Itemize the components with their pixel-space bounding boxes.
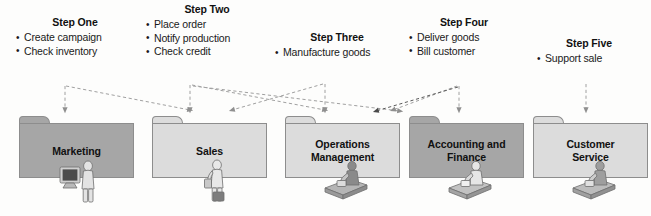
bullet-text: Create campaign [24,31,102,43]
step-title-five: Step Five [537,37,641,49]
arrow-step-two-to-operations [192,85,325,110]
bullet-text: Bill customer [417,45,475,57]
person-at-desk-icon [315,158,377,206]
bullet-glyph: • [146,31,149,45]
arrow-step-four-to-operations [393,86,457,110]
step-title-four: Step Four [409,16,519,28]
person-at-desk-icon [439,158,501,206]
step-title-two: Step Two [146,3,268,15]
bullet-item: •Manufacture goods [275,46,399,60]
bullet-item: •Bill customer [409,45,519,59]
bullet-glyph: • [16,31,19,45]
bullet-item: •Deliver goods [409,31,519,45]
step-bullets-one: •Create campaign •Check inventory [16,31,134,58]
bullet-glyph: • [275,46,278,60]
process-diagram: Step One •Create campaign •Check invento… [0,0,651,216]
arrow-step-two-to-accounting [193,86,400,111]
department-folder-accounting[interactable]: Accounting and Finance [409,116,524,178]
bullet-glyph: • [16,44,19,58]
bullet-text: Support sale [545,52,602,64]
person-at-monitor-icon [56,158,112,206]
department-folder-marketing[interactable]: Marketing [19,116,134,178]
department-folder-sales[interactable]: Sales [152,116,267,178]
step-block-one: Step One •Create campaign •Check invento… [16,16,134,58]
bullet-text: Place order [154,18,206,30]
bullet-item: •Check credit [146,45,268,59]
step-title-one: Step One [16,16,134,28]
step-block-five: Step Five •Support sale [537,37,641,66]
folder-label-marketing: Marketing [19,145,134,158]
person-with-briefcase-icon [196,156,238,206]
step-block-two: Step Two •Place order •Notify production… [146,3,268,59]
step-bullets-four: •Deliver goods •Bill customer [409,31,519,58]
step-bullets-five: •Support sale [537,52,641,66]
bullet-item: •Create campaign [16,31,134,45]
bullet-glyph: • [409,44,412,58]
bullet-item: •Support sale [537,52,641,66]
step-bullets-three: •Manufacture goods [275,46,399,60]
bullet-item: •Notify production [146,32,268,46]
step-bullets-two: •Place order •Notify production •Check c… [146,18,268,59]
person-at-desk-icon [563,158,625,206]
bullet-text: Check credit [154,45,211,57]
bullet-text: Notify production [154,32,230,44]
bullet-text: Manufacture goods [283,46,370,58]
step-block-three: Step Three •Manufacture goods [275,31,399,60]
arrow-step-three-to-sales [232,84,323,110]
step-block-four: Step Four •Deliver goods •Bill customer [409,16,519,58]
bullet-text: Check inventory [24,45,97,57]
bullet-glyph: • [537,52,540,66]
bullet-item: •Check inventory [16,45,134,59]
bullet-glyph: • [146,45,149,59]
department-folder-customer-service[interactable]: Customer Service [533,116,648,178]
arrow-step-four-emphasis [376,87,458,111]
bullet-item: •Place order [146,18,268,32]
bullet-glyph: • [409,31,412,45]
bullet-glyph: • [146,18,149,32]
step-title-three: Step Three [275,31,399,43]
arrow-step-one-to-sales [66,86,190,110]
bullet-text: Deliver goods [417,31,479,43]
department-folder-operations[interactable]: Operations Management [285,116,400,178]
